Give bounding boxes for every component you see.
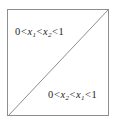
lower-relation-1: < [53, 89, 60, 100]
upper-relation-3: < [51, 26, 58, 37]
region-label-lower: 0<x2<x1<1 [48, 90, 97, 102]
lower-one: 1 [92, 89, 97, 100]
upper-relation-1: < [20, 26, 27, 37]
figure-canvas: 0<x1<x2<1 0<x2<x1<1 [0, 0, 118, 127]
upper-one: 1 [59, 26, 64, 37]
lower-relation-2: < [69, 89, 76, 100]
region-label-upper: 0<x1<x2<1 [15, 27, 64, 39]
upper-relation-2: < [36, 26, 43, 37]
lower-relation-3: < [84, 89, 91, 100]
